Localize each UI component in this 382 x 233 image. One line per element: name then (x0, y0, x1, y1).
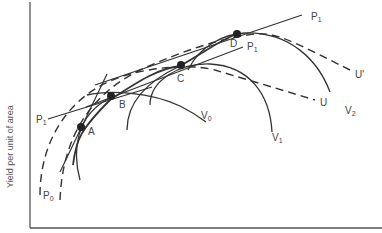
expansion-path (73, 34, 237, 165)
label-p1-left: P1 (36, 114, 47, 126)
label-a: A (88, 126, 95, 137)
label-d: D (230, 38, 237, 49)
label-p1-top: P1 (311, 11, 322, 23)
yield-diagram: Yield per unit of area A B C D V0 V1 V2 … (0, 0, 382, 233)
label-v0: V0 (201, 110, 212, 122)
point-d (233, 30, 241, 38)
yield-curve-v0 (87, 93, 206, 122)
label-c: C (177, 73, 184, 84)
yield-curve-v2 (188, 33, 330, 92)
yield-curve-a (76, 98, 110, 180)
label-b: B (119, 99, 126, 110)
y-axis-label: Yield per unit of area (5, 105, 15, 188)
price-line-p1-left (48, 87, 152, 119)
point-b (107, 92, 115, 100)
label-v2: V2 (345, 105, 356, 117)
point-a (77, 123, 85, 131)
label-u-prime: U' (355, 69, 364, 80)
yield-curve-b (127, 66, 180, 130)
label-u: U (320, 97, 327, 108)
label-p1-mid: P1 (247, 41, 258, 53)
label-v1: V1 (272, 132, 283, 144)
point-c (177, 61, 185, 69)
label-p0: P0 (43, 190, 54, 202)
price-line-p1-top (95, 15, 302, 85)
price-line-p0 (60, 74, 107, 172)
